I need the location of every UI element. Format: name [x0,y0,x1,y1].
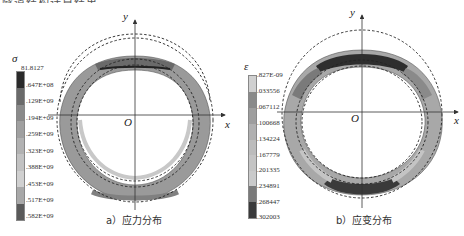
y-axis-label: y [350,6,355,18]
legend-tick: .194E+09 [26,114,53,122]
stress-color-bar [16,71,25,221]
legend-tick: .234891 [257,182,280,190]
legend-tick: 81.8127 [21,64,44,72]
x-axis-label: x [225,118,230,130]
figure-caption: a）应力分布 [106,212,162,227]
legend-tick: .453E+09 [26,180,53,188]
legend-tick: .167779 [257,151,280,159]
strain-color-bar [248,75,257,219]
stress-distribution-panel: y x O σ 81.8127 .647E+08 .129E+09 .194E+… [0,0,232,236]
legend-tick: .827E-09 [257,71,283,79]
legend-tick: .517E+09 [26,196,53,204]
legend-tick: .100668 [257,119,280,127]
legend-tick: .067112 [257,103,280,111]
legend-tick: .647E+08 [26,81,53,89]
legend-tick: .033556 [257,87,280,95]
origin-label: O [351,112,359,124]
legend-tick: .268447 [257,198,280,206]
legend-tick: .201335 [257,166,280,174]
legend-tick: .302003 [257,213,280,221]
legend-tick: .259E+09 [26,130,53,138]
x-axis-label: x [454,114,459,126]
legend-symbol: σ [12,52,17,64]
legend-tick: .323E+09 [26,147,53,155]
origin-label: O [124,116,132,128]
strain-distribution-panel: y x O ε .827E-09 .033556 .067112 .100668… [232,0,464,236]
legend-tick: .582E+09 [26,212,53,220]
y-axis-label: y [123,10,128,22]
legend-symbol: ε [244,60,248,72]
legend-tick: .388E+09 [26,163,53,171]
figure-caption: b）应变分布 [336,212,392,227]
legend-tick: .134224 [257,135,280,143]
legend-tick: .129E+09 [26,97,53,105]
